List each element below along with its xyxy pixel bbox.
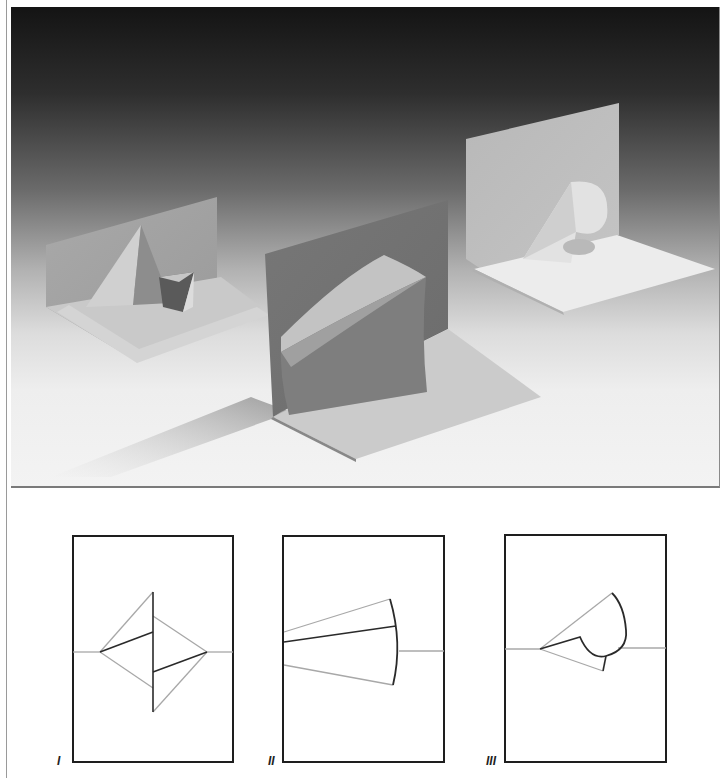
diagram-label-ii: II	[268, 754, 275, 768]
diagram-label-i: I	[57, 754, 60, 768]
diagram-label-iii: III	[486, 754, 496, 768]
card-frame-ii	[283, 536, 444, 762]
crease-pattern-i	[0, 0, 725, 778]
crease-pattern-iii	[505, 535, 666, 762]
crease-pattern-ii	[283, 536, 444, 762]
